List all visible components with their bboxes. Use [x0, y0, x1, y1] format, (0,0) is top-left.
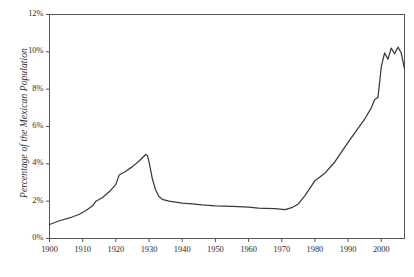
y-tick-label: 2%	[8, 196, 44, 205]
y-tick-label: 0%	[8, 233, 44, 242]
chart-figure: Percentage of the Mexican Population 0%2…	[0, 0, 414, 277]
y-tick-label: 8%	[8, 84, 44, 93]
data-series-line	[50, 47, 405, 224]
y-tick-label: 6%	[8, 121, 44, 130]
y-axis-tick-marks	[46, 15, 50, 239]
y-tick-label: 12%	[8, 9, 44, 18]
y-tick-label: 4%	[8, 158, 44, 167]
y-tick-label: 10%	[8, 46, 44, 55]
x-tick-label: 2000	[361, 245, 401, 254]
line-chart-plot	[0, 0, 414, 277]
x-axis-tick-marks	[50, 239, 382, 243]
plot-frame	[50, 15, 405, 239]
